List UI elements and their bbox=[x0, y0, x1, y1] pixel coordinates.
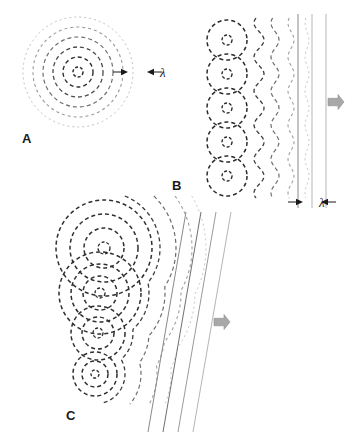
figure-canvas: λ A λ B C bbox=[0, 0, 360, 442]
panel-b-label: B bbox=[172, 178, 181, 193]
wave-diagram-figure: λ A λ B C bbox=[0, 0, 360, 442]
panel-c-label: C bbox=[66, 408, 76, 423]
panel-a-label: A bbox=[22, 131, 32, 146]
panel-a-lambda-label: λ bbox=[159, 65, 166, 80]
panel-b-lambda-label: λ bbox=[318, 195, 325, 210]
figure-background bbox=[0, 0, 360, 442]
